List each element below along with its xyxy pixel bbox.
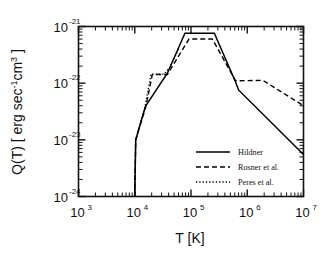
svg-text:-22: -22 — [69, 73, 81, 82]
x-axis-title: T [K] — [175, 230, 204, 246]
svg-text:5: 5 — [200, 203, 205, 212]
radiative-loss-chart: 10-2110-2210-2310-24 103104105106107 Hil… — [0, 0, 323, 261]
svg-text:-23: -23 — [69, 130, 81, 139]
legend-label: Peres et al. — [238, 178, 274, 187]
svg-text:10: 10 — [54, 133, 68, 148]
svg-text:10: 10 — [183, 205, 197, 220]
svg-text:-21: -21 — [69, 17, 81, 26]
legend-label: Hildner — [238, 148, 263, 157]
svg-text:4: 4 — [144, 203, 149, 212]
chart-svg: 10-2110-2210-2310-24 103104105106107 Hil… — [0, 0, 323, 261]
svg-text:6: 6 — [256, 203, 261, 212]
svg-text:10: 10 — [54, 20, 68, 35]
svg-text:7: 7 — [313, 203, 318, 212]
legend-label: Rosner et al. — [238, 163, 279, 172]
svg-text:10: 10 — [70, 205, 84, 220]
svg-text:10: 10 — [127, 205, 141, 220]
svg-text:10: 10 — [239, 205, 253, 220]
svg-text:10: 10 — [54, 76, 68, 91]
svg-text:3: 3 — [88, 203, 93, 212]
chart-background — [0, 0, 323, 261]
svg-text:10: 10 — [54, 190, 68, 205]
svg-text:10: 10 — [295, 205, 309, 220]
y-axis-title: Q(T) [ erg sec-1cm3 ] — [9, 49, 25, 175]
svg-text:-24: -24 — [69, 187, 81, 196]
